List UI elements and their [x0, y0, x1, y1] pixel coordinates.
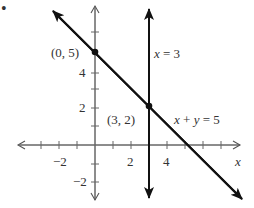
- point-marker: [146, 103, 153, 110]
- point-label-0-5: (0, 5): [51, 45, 79, 60]
- line-label-x-equals-3: x = 3: [153, 46, 180, 61]
- x-tick-label-2: 2: [127, 154, 134, 169]
- y-tick-label-2: 2: [79, 100, 86, 115]
- line-x-equals-3: x = 3: [149, 9, 180, 198]
- point-0-5: (0, 5): [51, 45, 98, 60]
- point-marker: [92, 49, 99, 56]
- coordinate-graph: • −2 2 4 x: [0, 0, 254, 208]
- x-axis-label: x: [234, 154, 241, 169]
- list-bullet: •: [1, 0, 7, 17]
- y-tick-label-neg2: −2: [73, 174, 87, 189]
- point-label-3-2: (3, 2): [107, 112, 135, 127]
- x-tick-label-4: 4: [163, 154, 170, 169]
- point-3-2: (3, 2): [107, 103, 152, 127]
- line-label-x-equals-3-rest: = 3: [160, 46, 180, 61]
- x-tick-label-neg2: −2: [53, 154, 67, 169]
- y-tick-label-4: 4: [79, 65, 86, 80]
- line-label-x-plus-y-equals-5: x + y = 5: [173, 112, 220, 127]
